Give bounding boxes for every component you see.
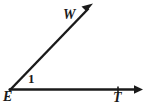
point-label-t: T bbox=[113, 91, 122, 105]
ray-ew-line bbox=[10, 9, 89, 91]
ray-ew bbox=[10, 4, 93, 91]
angle-diagram-figure: E W T 1 bbox=[0, 0, 150, 108]
ray-ew-arrowhead bbox=[82, 4, 94, 12]
ray-et-arrowhead bbox=[134, 85, 143, 93]
angle-label-1: 1 bbox=[28, 72, 35, 85]
point-label-e: E bbox=[3, 90, 12, 104]
point-label-w: W bbox=[63, 8, 75, 22]
ray-et bbox=[10, 85, 143, 93]
